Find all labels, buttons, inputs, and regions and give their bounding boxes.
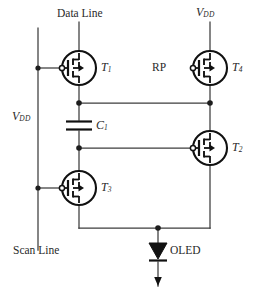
label-oled: OLED: [170, 245, 201, 257]
junction-dot-nodeB-left: [76, 145, 82, 151]
label-t3-base: T: [101, 180, 108, 194]
circuit-diagram: Data Line VDD VDD RP T1 T4 T2 T3 C1 OLED…: [0, 0, 254, 290]
label-t2-base: T: [232, 140, 239, 154]
t2-gate-bubble: [190, 145, 195, 150]
label-t4-subscript: 4: [239, 65, 243, 74]
capacitor-c1: [66, 122, 92, 130]
label-c1: C1: [96, 119, 108, 132]
junction-dot-nodeA-right: [207, 100, 213, 106]
oled-triangle: [149, 243, 167, 259]
label-t4: T4: [232, 61, 243, 74]
label-t3-subscript: 3: [108, 185, 112, 194]
transistor-t4: [190, 51, 227, 85]
junction-dot-oled-anode: [155, 225, 161, 231]
oled-terminal-arrow: [154, 277, 162, 286]
junction-dot-t3-gate: [35, 185, 40, 190]
label-t1-subscript: 1: [108, 65, 112, 74]
label-vdd-top-subscript: DD: [203, 10, 214, 19]
t4-gate-bubble: [190, 65, 195, 70]
label-scan-line: Scan Line: [13, 245, 59, 257]
label-t1: T1: [101, 61, 112, 74]
label-data-line: Data Line: [57, 8, 103, 20]
transistor-t2: [190, 131, 227, 165]
label-vdd-left: VDD: [12, 110, 31, 123]
t1-gate-bubble: [59, 65, 64, 70]
label-t3: T3: [101, 181, 112, 194]
junction-dot-t1-gate: [35, 65, 40, 70]
label-t2-subscript: 2: [239, 145, 243, 154]
transistor-t3: [59, 171, 96, 205]
label-t2: T2: [232, 141, 243, 154]
label-vdd-left-subscript: DD: [19, 114, 30, 123]
junction-dot-nodeA-left: [76, 100, 82, 106]
label-vdd-top: VDD: [196, 6, 215, 19]
label-t4-base: T: [232, 60, 239, 74]
transistor-t1: [59, 51, 96, 85]
label-c1-subscript: 1: [104, 123, 108, 132]
t3-gate-bubble: [59, 185, 64, 190]
label-t1-base: T: [101, 60, 108, 74]
label-c1-base: C: [96, 118, 104, 132]
label-rp: RP: [152, 62, 166, 74]
